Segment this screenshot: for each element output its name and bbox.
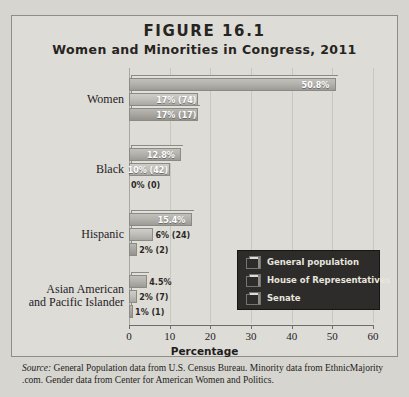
category-label: Black [0, 163, 124, 176]
x-axis-tick-label: 0 [117, 330, 141, 342]
x-axis-tick [170, 325, 171, 329]
bar-top-face [131, 160, 172, 163]
source-label: Source: [22, 363, 51, 373]
bar-value-label: 0% (0) [131, 181, 160, 190]
bar-value-label: 2% (7) [139, 293, 168, 302]
legend-swatch-icon [246, 258, 259, 269]
x-axis-tick [210, 325, 211, 329]
x-axis-tick [251, 325, 252, 329]
legend-label: General population [267, 257, 359, 267]
bar-value-label: 15.4% [158, 216, 186, 225]
legend-swatch-icon [246, 294, 259, 305]
x-axis-tick-label: 50 [320, 330, 344, 342]
bar-top-face [131, 145, 183, 148]
bar-value-label: 50.8% [302, 81, 330, 90]
bar-top-face [131, 287, 139, 290]
category-label: Asian Americanand Pacific Islander [0, 283, 124, 309]
category-label: Women [0, 93, 124, 106]
x-axis-title: Percentage [0, 345, 409, 357]
figure-page: FIGURE 16.1 Women and Minorities in Cong… [0, 0, 409, 397]
x-axis-tick [129, 325, 130, 329]
x-axis-tick [332, 325, 333, 329]
bar-top-face [131, 105, 200, 108]
source-note: Source: General Population data from U.S… [22, 362, 390, 386]
category-label: Hispanic [0, 228, 124, 241]
legend-label: House of Representatives [267, 275, 391, 285]
bar-top-face [131, 210, 194, 213]
bar-value-label: 12.8% [147, 151, 175, 160]
bar [129, 305, 133, 318]
chart-legend: General population House of Representati… [237, 250, 380, 310]
figure-number: FIGURE 16.1 [0, 22, 409, 40]
bar-value-label: 1% (1) [135, 308, 164, 317]
figure-title: Women and Minorities in Congress, 2011 [0, 42, 409, 57]
bar-value-label: 2% (2) [139, 246, 168, 255]
source-body: General Population data from U.S. Census… [22, 363, 383, 385]
x-axis-tick-label: 40 [280, 330, 304, 342]
bar-value-label: 10% (42) [128, 166, 168, 175]
legend-swatch-icon [246, 276, 259, 287]
x-axis-tick-label: 60 [361, 330, 385, 342]
x-axis-tick-label: 20 [198, 330, 222, 342]
legend-label: Senate [267, 293, 301, 303]
bar-top-face [131, 90, 200, 93]
bar-top-face [131, 225, 155, 228]
bar-top-face [131, 240, 139, 243]
bar-value-label: 6% (24) [155, 231, 190, 240]
x-axis-tick [373, 325, 374, 329]
bar-value-label: 4.5% [149, 278, 171, 287]
x-axis-tick-label: 10 [158, 330, 182, 342]
bar-top-face [131, 302, 135, 305]
gridline [210, 68, 211, 323]
bar-value-label: 17% (74) [156, 96, 196, 105]
x-axis-tick [292, 325, 293, 329]
bar-top-face [131, 272, 149, 275]
x-axis-tick-label: 30 [239, 330, 263, 342]
bar-top-face [131, 75, 338, 78]
bar [129, 243, 137, 256]
bar-value-label: 17% (17) [156, 111, 196, 120]
